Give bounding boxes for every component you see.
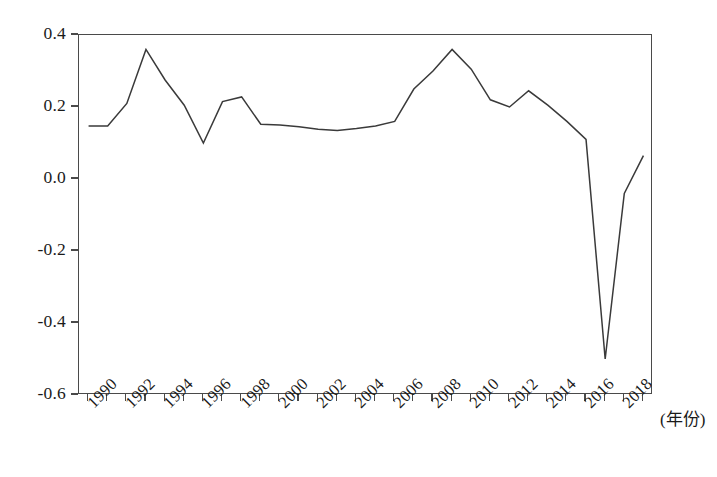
x-tick-label: 2000 [275,375,311,411]
x-tick-label: 2002 [313,375,349,411]
x-tick-label: 1994 [160,375,196,411]
x-tick-label: 2006 [390,375,426,411]
x-tick-label: 2012 [505,375,541,411]
x-tick-label: 2016 [581,375,617,411]
x-tick-label: 2014 [543,375,579,411]
x-tick-label: 1990 [84,375,120,411]
x-tick-label: 2010 [466,375,502,411]
x-tick-label: 2018 [619,375,655,411]
x-tick-label: 1992 [122,375,158,411]
line-chart: 0.40.20.0-0.2-0.4-0.6 199019921994199619… [0,0,717,477]
x-tick-label: 2004 [351,375,387,411]
x-tick-label: 1996 [198,375,234,411]
x-tick-label: 2008 [428,375,464,411]
x-axis: 1990199219941996199820002002200420062008… [0,0,717,477]
x-tick-label: 1998 [237,375,273,411]
x-axis-title: (年份) [660,405,705,430]
